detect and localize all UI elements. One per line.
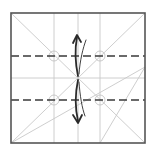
background [0,0,149,152]
origami-fold-diagram [0,0,149,152]
